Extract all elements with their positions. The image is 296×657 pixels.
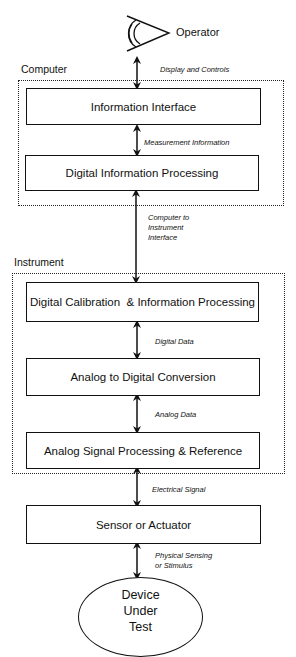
device-under-test: Device Under Test xyxy=(78,577,203,657)
operator-label: Operator xyxy=(176,26,219,38)
sensor-actuator-block: Sensor or Actuator xyxy=(26,505,261,544)
measurement-information-label: Measurement Information xyxy=(144,138,229,148)
analog-data-label: Analog Data xyxy=(155,410,196,420)
computer-to-instrument-label: Computer to Instrument Interface xyxy=(148,213,189,243)
digital-information-processing-block: Digital Information Processing xyxy=(25,155,259,191)
analog-signal-processing-label: Analog Signal Processing & Reference xyxy=(44,445,242,457)
sensor-actuator-label: Sensor or Actuator xyxy=(96,519,191,531)
adc-block: Analog to Digital Conversion xyxy=(26,358,260,396)
electrical-signal-label: Electrical Signal xyxy=(152,485,205,495)
eye-icon xyxy=(124,14,174,54)
digital-calibration-block: Digital Calibration & Information Proces… xyxy=(26,282,259,322)
digital-calibration-label: Digital Calibration & Information Proces… xyxy=(30,296,255,308)
physical-sensing-label: Physical Sensing or Stimulus xyxy=(155,551,212,571)
digital-data-label: Digital Data xyxy=(155,337,194,347)
information-interface-block: Information Interface xyxy=(26,88,261,125)
digital-information-processing-label: Digital Information Processing xyxy=(66,167,219,179)
adc-label: Analog to Digital Conversion xyxy=(70,371,215,383)
analog-signal-processing-block: Analog Signal Processing & Reference xyxy=(26,432,260,469)
information-interface-label: Information Interface xyxy=(91,101,196,113)
display-controls-label: Display and Controls xyxy=(160,65,229,75)
